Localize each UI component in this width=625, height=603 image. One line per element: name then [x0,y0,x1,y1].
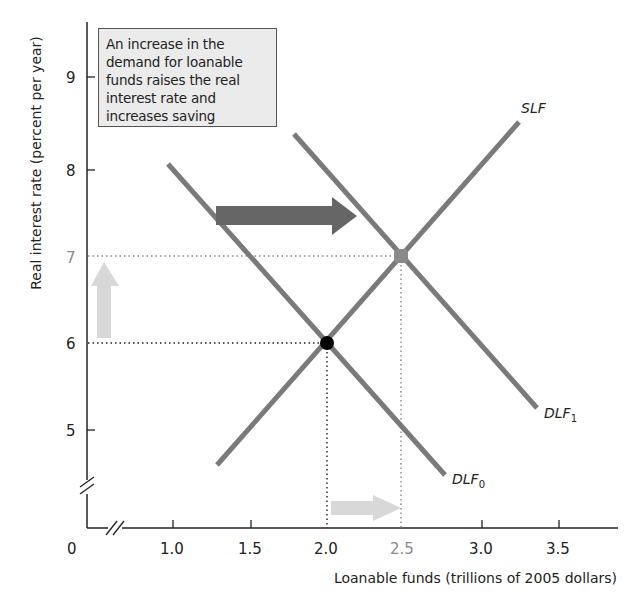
x-tick-1.5: 1.5 [238,540,262,558]
interest-rate-rise-arrow [91,262,119,338]
y-tick-6: 6 [66,335,76,353]
dlf1-curve [294,134,537,408]
x-tick-2.5: 2.5 [390,540,414,558]
x-axis-title: Loanable funds (trillions of 2005 dollar… [334,570,617,586]
x-tick-3.5: 3.5 [546,540,570,558]
dlf1-label: DLF1 [544,405,577,424]
new-equilibrium-point [394,249,408,263]
note-line: funds raises the real [106,71,270,89]
slf-label: SLF [521,100,547,116]
dlf0-label: DLF0 [452,471,485,490]
note-line: interest rate and [106,89,270,107]
guide-lines [88,256,401,528]
x-tick-3.0: 3.0 [469,540,493,558]
note-line: An increase in the [106,35,270,53]
initial-equilibrium-point [320,336,334,350]
y-axis-title: Real interest rate (percent per year) [28,36,44,290]
y-tick-7: 7 [66,249,76,267]
quantity-rise-arrow [331,495,401,521]
loanable-funds-chart: 0 1.0 1.5 2.0 2.5 3.0 3.5 9 8 7 6 5 Loan… [0,0,625,603]
x-tick-2.0: 2.0 [314,540,338,558]
x-tick-origin: 0 [67,540,77,558]
y-tick-9: 9 [66,69,76,87]
curves [168,122,537,475]
y-tick-5: 5 [66,422,76,440]
annotation-note-box: An increase in the demand for loanable f… [98,28,277,127]
slf-curve [217,122,519,465]
y-tick-8: 8 [66,162,76,180]
note-line: demand for loanable [106,53,270,71]
demand-shift-arrow [216,197,357,235]
x-tick-1.0: 1.0 [160,540,184,558]
note-line: increases saving [106,107,270,125]
